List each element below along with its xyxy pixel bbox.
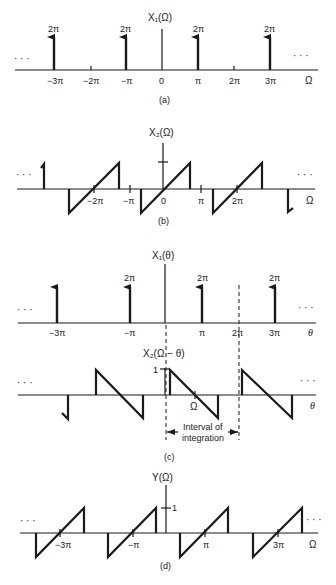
- caption: (d): [160, 561, 171, 571]
- tick-label: 2π: [232, 196, 243, 206]
- left-ellipsis: · · ·: [14, 53, 30, 64]
- tick-label: 2π: [229, 76, 240, 86]
- tick-label: π: [203, 540, 209, 550]
- impulse-train: [57, 287, 275, 323]
- tick-label: −3π: [47, 76, 63, 86]
- panel-c: X₁(θ) · · · · · · 2π 2π 2π −3π −π π 2π 3…: [17, 250, 316, 462]
- left-ellipsis: · · ·: [17, 377, 33, 388]
- left-ellipsis: · · ·: [20, 515, 36, 526]
- tick-label: 0: [161, 196, 166, 206]
- panel-b-title: X₂(Ω): [149, 127, 174, 138]
- tick-label: −3π: [49, 328, 65, 338]
- tick-label: 2π: [232, 328, 243, 338]
- axis-label: Ω: [305, 75, 313, 86]
- panel-d-title: Y(Ω): [152, 472, 173, 483]
- impulse-weight: 2π: [124, 273, 135, 283]
- impulse-weight: 2π: [264, 24, 275, 34]
- tick-label: −2π: [87, 196, 103, 206]
- axis-label: Ω: [309, 539, 317, 550]
- tick-label: π: [199, 328, 205, 338]
- impulse-weight: 2π: [269, 273, 280, 283]
- tick-label: −2π: [83, 76, 99, 86]
- tick-label: 3π: [265, 76, 276, 86]
- left-ellipsis: · · ·: [17, 304, 33, 315]
- sawtooth-waveform: [41, 163, 293, 213]
- interval-label-line2: integration: [182, 433, 224, 443]
- tick-label: −π: [124, 328, 135, 338]
- axis-label: Ω: [306, 195, 314, 206]
- figure: X₁(Ω) · · · · · · 2π 2π 2π 2π −3π −2π −π…: [0, 0, 336, 585]
- tick-label: −π: [123, 196, 134, 206]
- x1-theta-title: X₁(θ): [152, 250, 174, 261]
- axis-label: θ: [308, 327, 313, 338]
- x2-shifted-title: X₂(Ω − θ): [143, 348, 185, 359]
- tick-label: 3π: [273, 540, 284, 550]
- unit-label: 1: [153, 365, 158, 375]
- unit-label: 1: [172, 503, 177, 513]
- left-ellipsis: · · ·: [16, 169, 32, 180]
- tick-label: π: [195, 76, 201, 86]
- interval-label-line1: Interval of: [183, 422, 223, 432]
- impulse-weight: 2π: [197, 273, 208, 283]
- impulse-weight: 2π: [120, 24, 131, 34]
- caption: (a): [159, 95, 170, 105]
- right-ellipsis: · · ·: [300, 375, 316, 386]
- axis-label: θ: [310, 400, 315, 411]
- panel-b: X₂(Ω) · · · · · · −2π −π 0 π 2π Ω (b): [16, 127, 315, 226]
- panel-d: 1 Y(Ω) · · · · · · −3π −π π 3π Ω (d): [20, 472, 322, 571]
- caption: (c): [164, 452, 175, 462]
- tick-label: 0: [159, 76, 164, 86]
- omega-mark: Ω: [190, 401, 198, 412]
- tick-label: −3π: [55, 540, 71, 550]
- right-ellipsis: · · ·: [293, 50, 309, 61]
- tick-label: −π: [121, 76, 132, 86]
- panel-a: X₁(Ω) · · · · · · 2π 2π 2π 2π −3π −2π −π…: [14, 12, 318, 105]
- right-ellipsis: · · ·: [306, 514, 322, 525]
- right-ellipsis: · · ·: [297, 169, 313, 180]
- tick-label: −π: [128, 540, 139, 550]
- impulse-weight: 2π: [193, 24, 204, 34]
- impulse-weight: 2π: [48, 24, 59, 34]
- caption: (b): [158, 216, 169, 226]
- panel-a-title: X₁(Ω): [148, 12, 172, 23]
- tick-label: 3π: [269, 328, 280, 338]
- tick-label: π: [198, 196, 204, 206]
- right-ellipsis: · · ·: [298, 302, 314, 313]
